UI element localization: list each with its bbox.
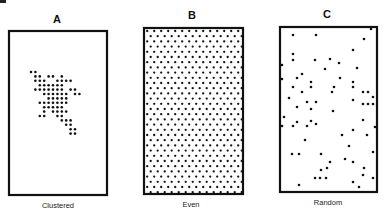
dot (160, 30, 162, 32)
dot (227, 170, 229, 172)
dot (61, 119, 64, 122)
dot (216, 165, 218, 167)
dot (223, 40, 225, 42)
dot (319, 177, 322, 180)
dot (43, 84, 46, 87)
dot (157, 160, 159, 162)
dot (65, 110, 68, 113)
dot (178, 129, 180, 131)
dot (320, 153, 323, 156)
dot (150, 191, 152, 193)
dot (188, 186, 190, 188)
dot (192, 87, 194, 89)
dot (234, 170, 236, 172)
dot (314, 59, 317, 62)
dot (181, 113, 183, 115)
cropped-heading-glyph (0, 0, 6, 3)
dot (213, 56, 215, 58)
dot (65, 102, 68, 105)
dot (164, 170, 166, 172)
dot (185, 56, 187, 58)
dot (344, 158, 347, 161)
dot (298, 184, 301, 187)
dot (69, 132, 72, 135)
dot (237, 123, 239, 125)
dot (171, 97, 173, 99)
dot (192, 129, 194, 131)
dot (171, 35, 173, 37)
dot (199, 129, 201, 131)
dot (241, 97, 243, 99)
dot (301, 73, 304, 76)
dot (310, 81, 313, 84)
dot (213, 170, 215, 172)
dot (47, 88, 50, 91)
dot (178, 160, 180, 162)
dot (153, 71, 155, 73)
dot (181, 186, 183, 188)
dot (47, 93, 50, 96)
dot (160, 123, 162, 125)
dot (209, 40, 211, 42)
dot (206, 149, 208, 151)
dot (234, 45, 236, 47)
dot (202, 92, 204, 94)
dot (153, 165, 155, 167)
dot (167, 186, 169, 188)
dot (230, 175, 232, 177)
dot (181, 92, 183, 94)
dot (234, 191, 236, 193)
dot (329, 58, 332, 61)
dot (234, 149, 236, 151)
dot (362, 103, 365, 106)
dot (220, 77, 222, 79)
dot (195, 123, 197, 125)
dot (292, 59, 295, 62)
dot (296, 121, 299, 124)
dot (150, 160, 152, 162)
dot (223, 51, 225, 53)
dot (220, 191, 222, 193)
dot (43, 88, 46, 91)
dot (241, 118, 243, 120)
dot (230, 155, 232, 157)
dot (56, 84, 59, 87)
dot (178, 170, 180, 172)
dot (223, 134, 225, 136)
dot (241, 87, 243, 89)
dot (195, 175, 197, 177)
dot (206, 181, 208, 183)
dot (171, 108, 173, 110)
dot (56, 97, 59, 100)
dot (372, 151, 375, 154)
dot (47, 97, 50, 100)
dot (146, 113, 148, 115)
dot (202, 186, 204, 188)
dot (160, 71, 162, 73)
dot (199, 45, 201, 47)
dot (199, 35, 201, 37)
dot (188, 30, 190, 32)
dot (362, 91, 365, 94)
dot (324, 68, 327, 71)
dot (146, 165, 148, 167)
dot (160, 103, 162, 105)
dot (160, 82, 162, 84)
dot (52, 97, 55, 100)
dot (292, 53, 295, 56)
dot (164, 45, 166, 47)
panel-c-random: C Random (280, 8, 377, 207)
dot (160, 144, 162, 146)
dot (213, 149, 215, 151)
dot (234, 66, 236, 68)
dot (181, 175, 183, 177)
dot (150, 129, 152, 131)
dot (206, 108, 208, 110)
dot (178, 108, 180, 110)
dot (61, 102, 64, 105)
dot (160, 40, 162, 42)
dot (164, 118, 166, 120)
dot (237, 144, 239, 146)
dot (52, 106, 55, 109)
dot (74, 93, 77, 96)
